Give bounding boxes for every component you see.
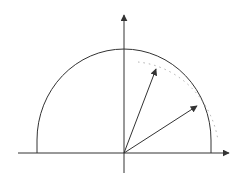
- semicircle-vector-diagram: [0, 0, 247, 183]
- lower-vector: [124, 106, 197, 153]
- dotted-trace: [138, 62, 218, 140]
- upper-vector: [124, 69, 156, 153]
